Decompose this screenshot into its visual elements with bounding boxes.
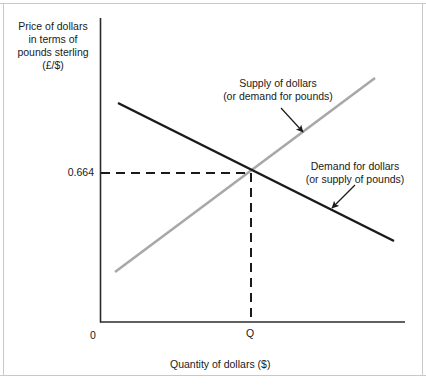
demand-curve-label: Demand for dollars (or supply of pounds): [290, 160, 420, 186]
figure-container: Price of dollars in terms of pounds ster…: [0, 0, 426, 389]
supply-curve-label: Supply of dollars (or demand for pounds): [208, 77, 348, 103]
demand-label-arrow: [332, 185, 355, 208]
x-axis-title: Quantity of dollars ($): [170, 358, 270, 371]
supply-label-arrow: [281, 108, 303, 132]
origin-label: 0: [90, 329, 96, 342]
equilibrium-quantity-label: Q: [246, 327, 254, 340]
equilibrium-price-label: 0.664: [52, 166, 94, 179]
y-axis-title: Price of dollars in terms of pounds ster…: [12, 20, 94, 72]
